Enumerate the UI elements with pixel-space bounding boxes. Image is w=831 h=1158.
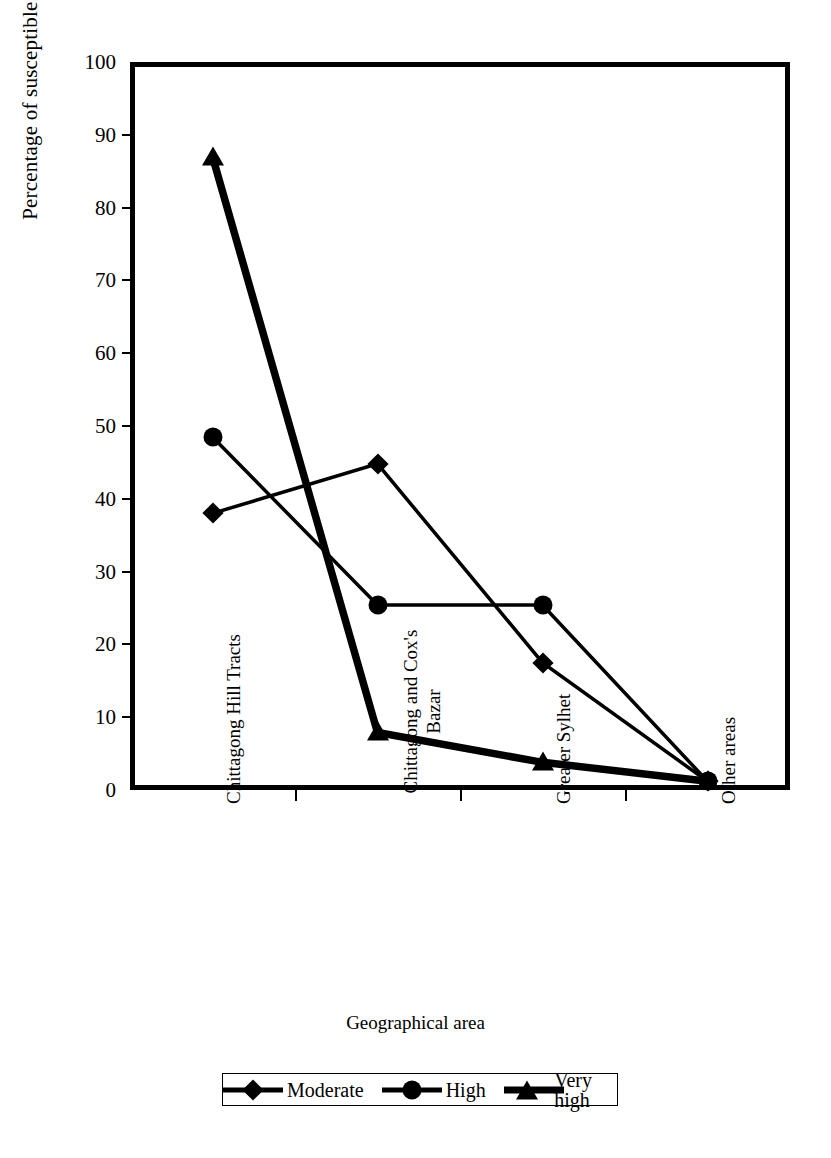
y-tick-label-0: 0 xyxy=(68,780,128,801)
legend-item-high: High xyxy=(382,1080,488,1100)
x-tickmark xyxy=(295,790,297,801)
data-point-very-high-2 xyxy=(532,752,554,771)
y-tick-label-60: 60 xyxy=(68,343,128,364)
circle-marker xyxy=(382,1081,442,1099)
y-tick-label-90: 90 xyxy=(68,124,128,145)
x-tick-label-line1: Chittagong and Cox's xyxy=(400,630,421,794)
x-tick-label-0: Chittagong Hill Tracts xyxy=(223,634,245,804)
data-point-very-high-0 xyxy=(202,146,224,165)
x-axis-title: Geographical area xyxy=(0,1012,831,1034)
x-tickmark xyxy=(460,790,462,801)
y-tick-label-20: 20 xyxy=(68,634,128,655)
triangle-marker-glyph xyxy=(516,1080,538,1099)
legend-item-moderate: Moderate xyxy=(223,1080,366,1100)
chart-title xyxy=(0,0,831,4)
x-tick-label-line2: Bazar xyxy=(422,619,445,804)
chart-figure: Percentage of susceptible area 100908070… xyxy=(0,0,831,1158)
y-axis-title: Percentage of susceptible area xyxy=(18,0,43,290)
x-tick-label-1: Chittagong and Cox'sBazar xyxy=(400,619,446,804)
y-tick-label-30: 30 xyxy=(68,561,128,582)
legend-item-very-high: Very high xyxy=(504,1070,617,1110)
diamond-marker-glyph xyxy=(242,1079,263,1100)
y-tick-label-10: 10 xyxy=(68,707,128,728)
y-tick-label-40: 40 xyxy=(68,488,128,509)
x-tick-label-3: Other areas xyxy=(718,717,740,804)
y-tick-label-70: 70 xyxy=(68,270,128,291)
y-tick-label-80: 80 xyxy=(68,197,128,218)
y-tick-label-50: 50 xyxy=(68,416,128,437)
legend-label: High xyxy=(444,1080,488,1100)
circle-marker-glyph xyxy=(402,1080,421,1099)
triangle-marker xyxy=(504,1081,551,1099)
data-point-high-0 xyxy=(203,427,222,446)
chart-legend: ModerateHighVery high xyxy=(222,1073,618,1106)
data-point-high-2 xyxy=(533,596,552,615)
data-point-very-high-3 xyxy=(697,771,719,790)
legend-label: Moderate xyxy=(285,1080,366,1100)
diamond-marker xyxy=(223,1081,283,1099)
data-point-high-1 xyxy=(368,596,387,615)
y-axis-tick-labels: 1009080706050403020100 xyxy=(60,62,128,790)
data-point-very-high-1 xyxy=(367,722,389,741)
x-tickmark xyxy=(625,790,627,801)
y-tick-label-100: 100 xyxy=(68,52,128,73)
x-tick-label-2: Greater Sylhet xyxy=(553,694,575,804)
